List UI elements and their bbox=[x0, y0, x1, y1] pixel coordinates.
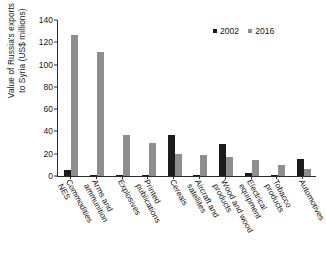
bar bbox=[123, 135, 130, 176]
bar-group bbox=[245, 20, 259, 176]
bar bbox=[168, 135, 175, 176]
bar bbox=[304, 169, 311, 176]
bar-group bbox=[193, 20, 207, 176]
legend-item: 2002 bbox=[213, 26, 239, 36]
x-axis-label: Printed publications bbox=[133, 178, 170, 225]
bar-group bbox=[168, 20, 182, 176]
y-axis-tick-label: 40 bbox=[13, 127, 53, 136]
y-axis-tick-label: 60 bbox=[13, 105, 53, 114]
bar-group bbox=[116, 20, 130, 176]
bar bbox=[149, 143, 156, 176]
legend-label: 2002 bbox=[220, 26, 239, 36]
y-axis-tick-label: 20 bbox=[13, 149, 53, 158]
bar-groups bbox=[57, 20, 315, 176]
plot-area: 020406080100120140 bbox=[57, 20, 315, 176]
bar bbox=[200, 155, 207, 176]
x-axis-label: Automotives bbox=[296, 178, 325, 222]
y-axis-tick-label: 0 bbox=[13, 172, 53, 181]
y-axis-tick-label: 120 bbox=[13, 38, 53, 47]
bar bbox=[278, 165, 285, 176]
bar-group bbox=[219, 20, 233, 176]
bar bbox=[219, 144, 226, 176]
bar bbox=[297, 159, 304, 176]
y-axis-tick-label: 140 bbox=[13, 16, 53, 25]
legend-swatch bbox=[248, 29, 252, 33]
bar bbox=[252, 160, 259, 176]
x-axis-label: Cereals bbox=[167, 178, 189, 207]
bar-group bbox=[142, 20, 156, 176]
legend-item: 2016 bbox=[248, 26, 274, 36]
x-axis-labels: Commodities NESArms and ammunitionExplos… bbox=[57, 178, 315, 264]
bar-group bbox=[64, 20, 78, 176]
bar bbox=[97, 52, 104, 176]
chart-legend: 20022016 bbox=[213, 26, 274, 36]
bar bbox=[175, 154, 182, 176]
legend-swatch bbox=[213, 29, 217, 33]
bar bbox=[226, 157, 233, 177]
y-axis-tick-label: 100 bbox=[13, 60, 53, 69]
bar-group bbox=[90, 20, 104, 176]
legend-label: 2016 bbox=[255, 26, 274, 36]
bar bbox=[71, 35, 78, 177]
bar-group bbox=[297, 20, 311, 176]
y-axis-tick-label: 80 bbox=[13, 83, 53, 92]
bar-group bbox=[271, 20, 285, 176]
